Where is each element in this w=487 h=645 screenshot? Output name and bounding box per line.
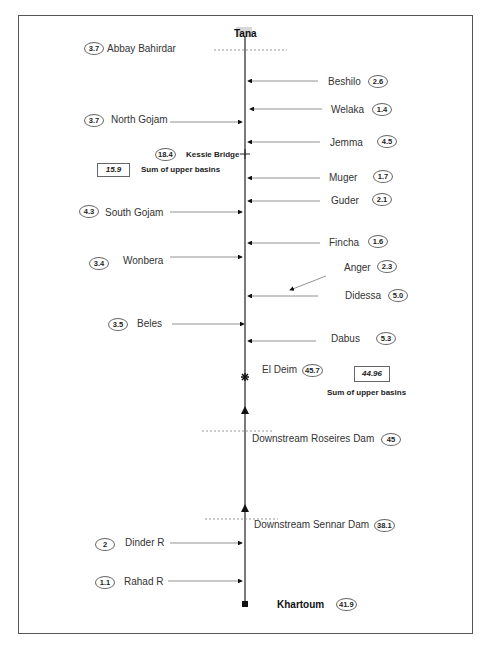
khartoum-label: Khartoum (277, 599, 324, 611)
anger-arrow (290, 276, 326, 290)
beshilo-label: Beshilo (328, 76, 361, 88)
anger-label: Anger (344, 262, 371, 274)
el-deim-label: El Deim (262, 364, 297, 376)
jemma-label: Jemma (330, 137, 363, 149)
dabus-label: Dabus (331, 333, 360, 345)
south-gojam-label: South Gojam (105, 207, 163, 219)
north-gojam-label: North Gojam (111, 114, 168, 126)
anger-value: 2.3 (377, 260, 397, 273)
roseires-value: 45 (381, 433, 401, 446)
north-gojam-value: 3.7 (84, 114, 104, 127)
wonbera-label: Wonbera (123, 255, 163, 267)
rahad-value: 1.1 (95, 576, 115, 589)
didessa-label: Didessa (345, 290, 381, 302)
flow-arrow-2 (241, 504, 249, 512)
sum-upper-basins-box-1: 15.9 (97, 163, 130, 177)
abbay-bahirdar-label: Abbay Bahirdar (107, 43, 176, 55)
el-deim-value: 45.7 (302, 364, 323, 377)
dinder-value: 2 (95, 538, 115, 551)
source-tana-label: Tana (234, 28, 257, 40)
el-deim-star-icon (241, 373, 249, 381)
south-gojam-value: 4.3 (79, 205, 99, 218)
beles-value: 3.5 (108, 318, 128, 331)
dinder-label: Dinder R (125, 537, 164, 549)
muger-label: Muger (329, 172, 357, 184)
jemma-value: 4.5 (377, 135, 397, 148)
welaka-label: Welaka (331, 104, 364, 116)
abbay-bahirdar-value: 3.7 (84, 42, 104, 55)
rahad-label: Rahad R (124, 576, 163, 588)
khartoum-value: 41.9 (336, 598, 357, 611)
guder-value: 2.1 (372, 193, 392, 206)
khartoum-square-icon (242, 601, 248, 607)
welaka-value: 1.4 (372, 103, 392, 116)
muger-value: 1.7 (373, 170, 393, 183)
kessie-bridge-label: Kessie Bridge (186, 149, 239, 161)
sum-upper-basins-label-1: Sum of upper basins (141, 164, 220, 176)
sennar-label: Downstream Sennar Dam (254, 519, 369, 531)
didessa-value: 5.0 (388, 289, 408, 302)
flow-arrow-1 (241, 406, 249, 414)
beles-label: Beles (137, 318, 162, 330)
guder-label: Guder (331, 195, 359, 207)
fincha-value: 1.6 (368, 235, 388, 248)
sennar-value: 38.1 (374, 519, 395, 532)
roseires-label: Downstream Roseires Dam (252, 433, 374, 445)
wonbera-value: 3.4 (89, 257, 109, 270)
fincha-label: Fincha (329, 237, 359, 249)
kessie-bridge-value: 18.4 (155, 148, 176, 161)
beshilo-value: 2.6 (368, 75, 388, 88)
sum-upper-basins-label-2: Sum of upper basins (327, 387, 406, 399)
sum-upper-basins-box-2: 44.96 (354, 366, 390, 382)
river-network-lines (0, 0, 487, 645)
dabus-value: 5.3 (376, 332, 396, 345)
